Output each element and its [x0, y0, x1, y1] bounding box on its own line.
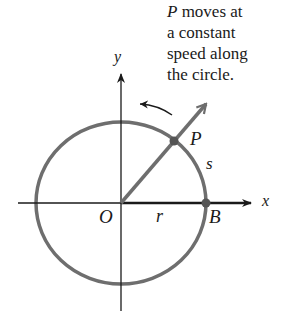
- point-b-label: B: [209, 206, 221, 228]
- x-axis-label: x: [262, 192, 269, 210]
- y-axis-label: y: [114, 48, 121, 66]
- caption-point: P: [167, 2, 177, 21]
- caption: P moves at a constant speed along the ci…: [167, 1, 248, 85]
- point-p-dot: [170, 137, 179, 146]
- point-p-label: P: [190, 128, 202, 150]
- arc-length-label: s: [206, 154, 213, 174]
- rotation-arrow-icon: [140, 104, 172, 115]
- origin-label: O: [99, 206, 113, 228]
- radius-label: r: [156, 206, 163, 227]
- ray-through-p: [121, 104, 206, 203]
